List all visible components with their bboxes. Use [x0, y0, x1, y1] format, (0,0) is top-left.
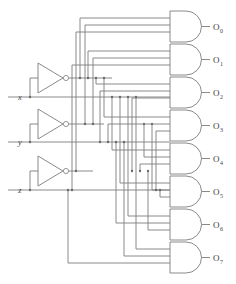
input-x-net: [8, 78, 170, 98]
and-gate-2[interactable]: [170, 77, 210, 108]
inverter-z: [38, 156, 93, 186]
junction-zn-4: [147, 170, 149, 172]
junction-z-3: [159, 189, 161, 191]
and-gate-1[interactable]: [170, 44, 210, 75]
junction-x-1: [111, 96, 113, 98]
and-gate-5[interactable]: [170, 176, 210, 207]
output-sub-1: 1: [220, 61, 223, 67]
and-gate-7[interactable]: [170, 242, 210, 273]
output-letter-5: O: [213, 187, 220, 197]
output-label-7: O 7: [213, 253, 223, 265]
output-label-1: O 1: [213, 55, 223, 67]
junction-zn-3: [139, 170, 141, 172]
junction-x: [29, 96, 31, 98]
output-label-3: O 3: [213, 121, 223, 133]
inverter-y-bubble: [63, 121, 68, 126]
input-label-y: y: [17, 137, 22, 147]
and-gate-0[interactable]: [170, 11, 210, 42]
output-label-6: O 6: [213, 220, 223, 232]
output-letter-0: O: [213, 22, 220, 32]
output-sub-3: 3: [220, 127, 223, 133]
inverter-z-bubble: [63, 168, 68, 173]
output-sub-6: 6: [220, 226, 223, 232]
input-label-x: x: [17, 92, 22, 102]
output-label-0: O 0: [213, 22, 223, 34]
output-label-5: O 5: [213, 187, 223, 199]
net-y-true: [99, 91, 170, 256]
junction-z-4: [67, 189, 69, 191]
output-sub-4: 4: [220, 160, 223, 166]
junction-x-2: [119, 96, 121, 98]
junction-yn-1: [84, 123, 86, 125]
input-z-net: [8, 171, 170, 191]
junction-y-2: [107, 141, 109, 143]
and-gate-6[interactable]: [170, 209, 210, 240]
output-letter-1: O: [213, 55, 220, 65]
inverter-x-bubble: [63, 75, 68, 80]
output-label-2: O 2: [213, 88, 223, 100]
circuit-diagram-canvas: x y z O 0 O 1 O 2 O 3 O 4 O 5 O 6 O 7: [0, 0, 236, 284]
net-x-not: [79, 18, 170, 117]
junction-y-1: [99, 141, 101, 143]
junction-y-3: [115, 141, 117, 143]
junction-y: [29, 141, 31, 143]
junction-xn-4: [103, 77, 105, 79]
junction-z: [29, 189, 31, 191]
junction-x-3: [127, 96, 129, 98]
output-letter-2: O: [213, 88, 220, 98]
junction-xn-3: [95, 77, 97, 79]
net-y-not: [84, 25, 170, 190]
and-gate-4[interactable]: [170, 143, 210, 174]
junction-yn-2: [92, 123, 94, 125]
junction-zn-1: [75, 170, 77, 172]
output-letter-3: O: [213, 121, 220, 131]
junction-xn-2: [87, 77, 89, 79]
output-sub-7: 7: [220, 259, 223, 265]
junction-z-1: [71, 189, 73, 191]
output-sub-2: 2: [220, 94, 223, 100]
output-letter-6: O: [213, 220, 220, 230]
input-label-z: z: [17, 185, 22, 195]
decoder-schematic: x y z O 0 O 1 O 2 O 3 O 4 O 5 O 6 O 7: [0, 0, 236, 284]
output-letter-7: O: [213, 253, 220, 263]
junction-y-4: [123, 141, 125, 143]
net-x-true: [111, 96, 170, 249]
output-sub-5: 5: [220, 193, 223, 199]
output-sub-0: 0: [220, 28, 223, 34]
output-letter-4: O: [213, 154, 220, 164]
junction-zn-2: [131, 170, 133, 172]
inverter-x: [38, 63, 112, 93]
and-gate-3[interactable]: [170, 110, 210, 141]
output-label-4: O 4: [213, 154, 223, 166]
junction-z-2: [155, 189, 157, 191]
junction-xn-1: [79, 77, 81, 79]
input-y-net: [8, 124, 170, 143]
